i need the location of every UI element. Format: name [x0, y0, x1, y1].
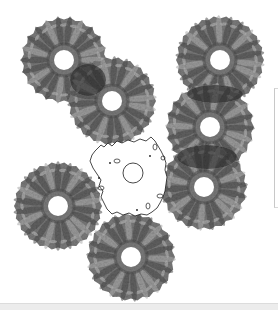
ring-upper-center-hole	[102, 91, 122, 111]
contour-dot	[149, 155, 151, 157]
ring-top-left-hole	[54, 50, 74, 70]
bottom-strip	[0, 303, 278, 310]
contour-dot	[136, 209, 138, 211]
contour-dot	[109, 162, 111, 164]
ring-bottom-center-hole	[121, 247, 141, 267]
ring-right-middle-hole	[200, 117, 220, 137]
side-panel-edge	[274, 88, 278, 208]
contour-dot	[98, 177, 100, 179]
ring-top-right-hole	[210, 50, 230, 70]
contour-layer	[90, 137, 167, 216]
overlap-3-4	[187, 85, 243, 103]
ring-right-lower-hole	[194, 177, 214, 197]
ring-bottom-left-hole	[48, 196, 68, 216]
image-canvas: Seven textured rings arranged around a c…	[0, 0, 278, 310]
overlap-1-2	[70, 64, 106, 96]
ring-scene	[0, 0, 278, 303]
overlap-4-5	[177, 145, 237, 169]
